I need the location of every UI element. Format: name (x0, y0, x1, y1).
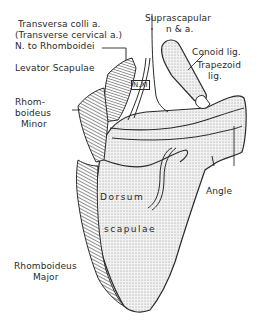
label-nerve-xi: N.XI (131, 80, 150, 90)
label-rhomboideus-major-2: Major (33, 272, 59, 282)
label-n-rhomboidei: N. to Rhomboidei (15, 41, 95, 51)
scapula-body (96, 96, 246, 312)
label-transverse-cervical: (Transverse cervical a.) (15, 30, 122, 40)
label-suprascapular-n-a: n & a. (166, 24, 193, 34)
anatomy-figure: Transversa colli a. (Transverse cervical… (0, 0, 259, 322)
label-trapezoid-lig: Trapezoid (197, 60, 241, 70)
label-rhomboideus-minor-2: boideus (15, 108, 51, 118)
label-angle: Angle (206, 186, 232, 196)
label-transversa-colli: Transversa colli a. (18, 19, 101, 29)
label-dorsum: Dorsum (100, 192, 144, 202)
label-rhomboideus-major-1: Rhomboideus (14, 261, 77, 271)
label-conoid-lig: Conoid lig. (192, 47, 241, 57)
label-rhomboideus-minor-1: Rhom- (15, 97, 45, 107)
rhomboideus-minor-muscle (78, 88, 108, 162)
label-levator-scapulae: Levator Scapulae (15, 63, 95, 73)
label-trapezoid-lig-2: lig. (208, 71, 222, 81)
label-rhomboideus-minor-3: Minor (21, 119, 47, 129)
label-scapulae: scapulae (104, 224, 156, 234)
label-suprascapular: Suprascapular (145, 13, 211, 23)
